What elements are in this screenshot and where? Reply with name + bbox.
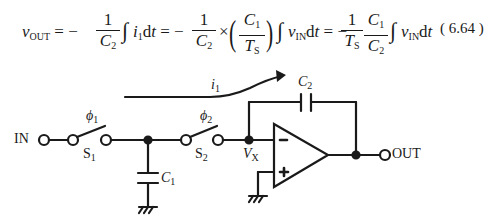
cap-c2-label: C2 [298,74,312,91]
subscript: 1 [91,152,96,163]
t-symbol: t [428,22,433,41]
node-vx-label: VX [243,146,259,163]
cap-c1-label: C1 [161,170,175,187]
c-symbol: C [161,170,170,185]
v-symbol: V [243,146,252,161]
subscript: 2 [307,80,312,91]
switch-s1-label: S1 [83,146,96,163]
s-symbol: S [195,146,203,161]
subscript: IN [409,31,420,42]
output-node [353,152,360,159]
subscript: 2 [207,114,212,125]
d-symbol: d [419,22,428,41]
subscript: X [252,152,259,163]
opamp-triangle [274,124,328,187]
switch-s2-lever [190,126,217,137]
phase-1-label: ϕ1 [86,108,98,125]
arrow-head-icon [276,70,286,82]
in-label: IN [14,131,29,147]
switch-s2-contact-b [213,135,223,145]
out-label: OUT [392,146,421,162]
output-terminal [380,150,390,160]
integrand-vin-dt-final: vINdt [401,22,432,42]
subscript: 1 [215,83,220,94]
subscript: 1 [170,176,175,187]
subscript: 1 [93,114,98,125]
phase-2-label: ϕ2 [200,108,212,125]
switch-s2-label: S2 [195,146,208,163]
switch-s1-contact-b [101,135,111,145]
c-symbol: C [298,74,307,89]
subscript: 2 [203,152,208,163]
v-symbol: v [401,22,409,41]
input-terminal [39,135,49,145]
switch-s1-lever [77,126,105,137]
s-symbol: S [83,146,91,161]
current-i1-label: i1 [211,77,220,94]
current-arrow [125,76,282,97]
